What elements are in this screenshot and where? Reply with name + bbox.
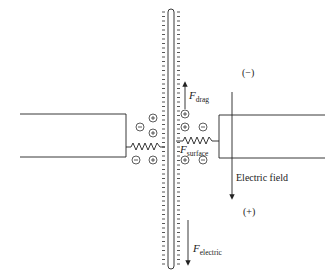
- f-drag-main: F: [189, 89, 196, 101]
- strand-negative-charges-right: [177, 12, 180, 264]
- f-drag-label: Fdrag: [189, 90, 209, 104]
- positive-pole-label: (+): [243, 207, 255, 217]
- left-membrane: [20, 114, 126, 157]
- f-electric-label: Felectric: [193, 243, 222, 257]
- strand-negative-charges-left: [162, 12, 165, 264]
- f-surface-main: F: [180, 143, 187, 155]
- nanopore-force-diagram: (−) Fdrag Fsurface Electric field (+) Fe…: [0, 0, 336, 275]
- left-spring: [126, 143, 165, 150]
- f-surface-sub: surface: [187, 149, 209, 158]
- f-electric-sub: electric: [200, 248, 222, 257]
- negative-pole-label: (−): [242, 68, 254, 78]
- electric-field-label: Electric field: [236, 173, 288, 183]
- f-drag-sub: drag: [196, 95, 209, 104]
- dna-strand: [162, 9, 180, 269]
- f-electric-main: F: [193, 242, 200, 254]
- f-surface-label: Fsurface: [180, 144, 208, 158]
- diagram-canvas: [0, 0, 336, 275]
- right-membrane: [219, 115, 325, 158]
